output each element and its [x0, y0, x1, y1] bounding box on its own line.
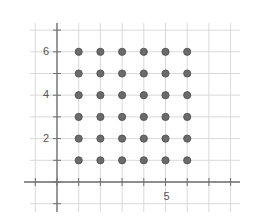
data-point	[162, 135, 169, 142]
data-point	[75, 157, 82, 164]
data-point	[97, 48, 104, 55]
data-point	[97, 70, 104, 77]
data-point	[119, 113, 126, 120]
data-point	[184, 135, 191, 142]
data-point	[119, 157, 126, 164]
data-point	[75, 92, 82, 99]
scatter-plot	[0, 0, 257, 223]
data-point	[162, 113, 169, 120]
data-point	[119, 70, 126, 77]
data-points	[75, 48, 191, 164]
data-point	[75, 70, 82, 77]
data-point	[184, 157, 191, 164]
y-tick-label: 4	[43, 88, 49, 100]
data-point	[162, 157, 169, 164]
data-point	[75, 113, 82, 120]
data-point	[75, 48, 82, 55]
data-point	[162, 48, 169, 55]
data-point	[140, 48, 147, 55]
data-point	[97, 135, 104, 142]
data-point	[162, 92, 169, 99]
data-point	[184, 48, 191, 55]
data-point	[184, 70, 191, 77]
data-point	[119, 135, 126, 142]
data-point	[162, 70, 169, 77]
data-point	[140, 157, 147, 164]
data-point	[184, 113, 191, 120]
data-point	[140, 113, 147, 120]
data-point	[119, 48, 126, 55]
data-point	[140, 92, 147, 99]
x-tick-label: 5	[164, 190, 170, 202]
data-point	[97, 92, 104, 99]
data-point	[75, 135, 82, 142]
data-point	[184, 92, 191, 99]
y-tick-label: 2	[43, 132, 49, 144]
y-tick-label: 6	[43, 45, 49, 57]
data-point	[97, 113, 104, 120]
data-point	[140, 135, 147, 142]
data-point	[140, 70, 147, 77]
data-point	[119, 92, 126, 99]
data-point	[97, 157, 104, 164]
